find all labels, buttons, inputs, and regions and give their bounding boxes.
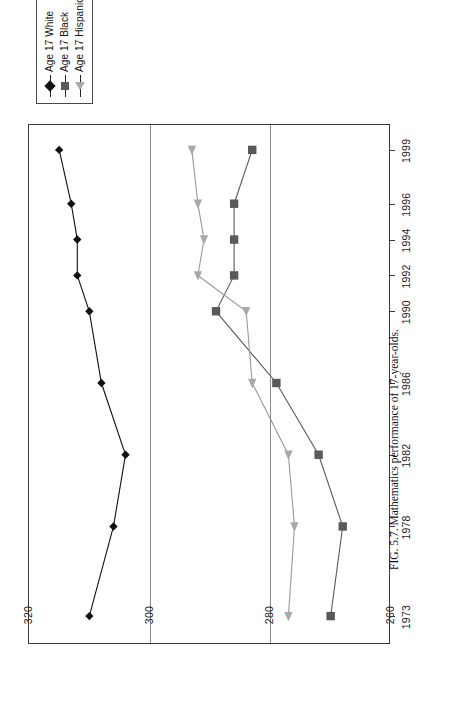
diamond-data-point (121, 451, 129, 459)
square-data-point (339, 522, 347, 530)
diamond-data-point (73, 271, 81, 279)
square-data-point (230, 271, 238, 279)
legend-label-hispanic: Age 17 Hispanic (74, 0, 85, 75)
x-tick-label: 1986 (400, 372, 412, 396)
triangle-data-point (248, 379, 256, 388)
chart-plot-area (28, 124, 390, 644)
rotated-figure: 320300280260 197319781982198619901992199… (0, 0, 460, 716)
chart-legend: Age 17 White Age 17 Black Age 17 Hispani… (36, 0, 93, 104)
gridline (270, 125, 271, 643)
x-tick-label: 1999 (400, 139, 412, 163)
triangle-marker-icon (74, 75, 86, 97)
diamond-data-point (97, 379, 105, 387)
square-data-point (230, 235, 238, 243)
x-tick-label: 1973 (400, 605, 412, 629)
legend-item-white: Age 17 White (42, 0, 57, 97)
legend-label-black: Age 17 Black (59, 12, 70, 75)
diamond-data-point (109, 522, 117, 530)
triangle-data-point (284, 612, 292, 621)
y-tick-label: 320 (22, 606, 34, 624)
gridline (150, 125, 151, 643)
series-square (212, 146, 347, 621)
series-triangle (188, 146, 299, 622)
square-marker-icon (59, 75, 71, 97)
x-tick-label: 1996 (400, 193, 412, 217)
triangle-data-point (200, 235, 208, 244)
y-tick-label: 260 (384, 606, 396, 624)
x-tick-label: 1994 (400, 228, 412, 252)
square-data-point (272, 379, 280, 387)
triangle-data-point (188, 146, 196, 155)
square-data-point (314, 451, 322, 459)
chart-series-layer (29, 123, 391, 643)
x-tick (390, 616, 395, 617)
legend-item-black: Age 17 Black (57, 0, 72, 97)
y-tick-label: 300 (143, 606, 155, 624)
triangle-data-point (194, 271, 202, 280)
series-diamond (55, 146, 130, 621)
diamond-data-point (85, 612, 93, 620)
square-data-point (212, 307, 220, 315)
x-tick-label: 1992 (400, 264, 412, 288)
x-tick-label: 1978 (400, 515, 412, 539)
square-data-point (326, 612, 334, 620)
series-line (59, 150, 125, 616)
diamond-data-point (73, 235, 81, 243)
triangle-data-point (194, 199, 202, 208)
diamond-data-point (85, 307, 93, 315)
triangle-data-point (290, 522, 298, 531)
triangle-data-point (284, 451, 292, 460)
square-data-point (230, 199, 238, 207)
legend-label-white: Age 17 White (44, 11, 55, 75)
diamond-data-point (67, 199, 75, 207)
triangle-data-point (242, 307, 250, 316)
figure-caption: FIG. 5.7. Mathematics performance of 17-… (388, 150, 400, 570)
x-tick-label: 1990 (400, 300, 412, 324)
diamond-marker-icon (44, 75, 56, 97)
x-tick-label: 1982 (400, 444, 412, 468)
diamond-data-point (55, 146, 63, 154)
square-data-point (248, 146, 256, 154)
figure-page: 320300280260 197319781982198619901992199… (0, 0, 460, 716)
y-tick-label: 280 (263, 606, 275, 624)
legend-item-hispanic: Age 17 Hispanic (72, 0, 87, 97)
